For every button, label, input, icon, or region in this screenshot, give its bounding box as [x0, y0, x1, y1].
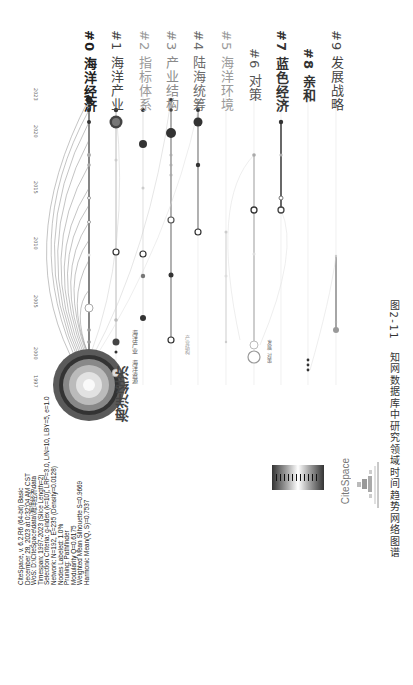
node-label-strategy: 对策	[266, 353, 273, 363]
cluster-label-5: #5 海洋环境	[217, 30, 236, 112]
time-colorbar	[272, 465, 324, 490]
year-2005: 2005	[33, 295, 39, 308]
cluster-label-7: #7 蓝色经济	[272, 30, 291, 113]
stats-line: Harmonic Mean(Q, S)=0.7537	[84, 395, 91, 585]
node-label-industry-structure: 产业结构	[184, 335, 191, 355]
year-2000: 2000	[33, 347, 39, 360]
cluster-label-1: #1 海洋产业	[107, 30, 126, 112]
cluster-guide-lines	[89, 95, 336, 385]
year-2010: 2010	[33, 237, 39, 250]
figure-caption: 图2-11 知网数据库中研究领域时间趋势网络图谱	[386, 300, 401, 559]
network-stats: CiteSpace, v. 6.2.R6 (64-bit) Basic Dece…	[18, 395, 98, 585]
logo-text: CiteSpace	[340, 458, 351, 504]
citespace-logo: CiteSpace	[340, 458, 382, 510]
cluster-label-3: #3 产业结构	[162, 30, 181, 112]
year-2015: 2015	[33, 181, 39, 194]
cluster-label-0: #0 海洋经济	[80, 30, 99, 113]
cluster-label-2: #2 指标体系	[135, 30, 154, 112]
node-label-develop: 发展	[266, 340, 273, 350]
cluster-timelines	[89, 99, 336, 355]
year-2023: 2023	[33, 88, 39, 101]
cluster-label-6: #6 对策	[245, 48, 264, 102]
node-label-ocean-industry: 海洋产业	[130, 330, 139, 354]
cluster-label-9: #9 发展战略	[327, 30, 346, 112]
year-2020: 2020	[33, 125, 39, 138]
keyword-nodes[interactable]	[85, 96, 339, 371]
node-label-ocean-resources: 海洋资源	[130, 360, 139, 384]
cluster-label-8: #8 亲和	[299, 48, 318, 103]
year-1997: 1997	[33, 375, 39, 388]
cluster-label-4: #4 陆海统筹	[189, 30, 208, 112]
colorbar-ticks	[276, 474, 320, 481]
timeline-figure: #0 海洋经济 #1 海洋产业 #2 指标体系 #3 产业结构 #4 陆海统筹 …	[0, 0, 413, 685]
logo-mark-icon	[352, 458, 382, 510]
